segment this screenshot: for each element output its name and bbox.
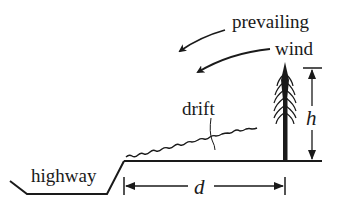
drift-label: drift [182, 98, 215, 119]
wind-label-prevailing: prevailing [232, 11, 310, 32]
snow-drift-diagram: h d prevailing wind drift highway [0, 0, 343, 212]
wind-arrow-icon [198, 49, 270, 72]
height-label: h [306, 106, 317, 130]
drift-leader-line [210, 118, 215, 150]
wind-arrow-icon [180, 30, 225, 51]
wind-arrows [180, 30, 270, 72]
snow-drift-surface [126, 128, 257, 157]
distance-label: d [194, 175, 205, 199]
wind-label-wind: wind [275, 38, 314, 59]
highway-label: highway [31, 165, 97, 186]
conifer-tree-icon [274, 62, 296, 161]
distance-dimension [124, 177, 285, 195]
